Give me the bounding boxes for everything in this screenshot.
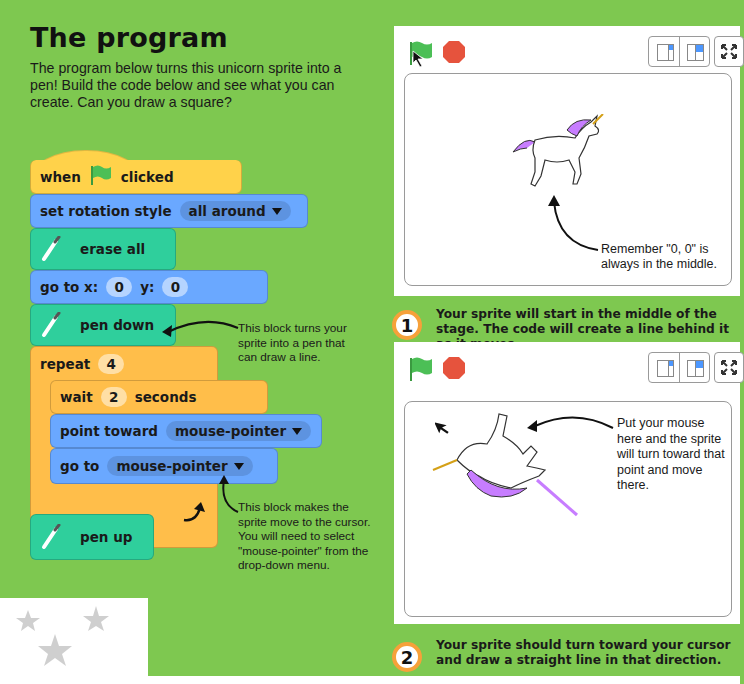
pen-icon — [40, 524, 62, 550]
erase-all-block[interactable]: erase all — [30, 228, 176, 270]
green-flag-button[interactable] — [408, 356, 434, 386]
block-text: pen up — [80, 529, 132, 545]
green-flag-icon — [89, 164, 113, 189]
large-stage-button[interactable] — [687, 44, 704, 61]
dropdown-arrow-icon — [292, 428, 302, 435]
pen-up-block[interactable]: pen up — [30, 514, 154, 560]
pen-down-note: This block turns your sprite into a pen … — [238, 321, 356, 365]
stage-size-toggle — [648, 352, 710, 383]
bottom-strip — [148, 676, 740, 684]
block-text: go to — [60, 458, 99, 474]
stage-canvas-1[interactable]: Remember "0, 0" is always in the middle. — [404, 73, 732, 286]
dropdown-value: mouse-pointer — [175, 423, 286, 439]
mouse-cursor-icon — [412, 50, 428, 72]
dropdown-arrow-icon — [272, 208, 282, 215]
go-to-note: This block makes the sprite move to the … — [238, 500, 373, 573]
pen-down-arrow-icon — [160, 318, 240, 344]
y-input[interactable]: 0 — [162, 277, 188, 297]
dropdown-value: mouse-pointer — [116, 458, 227, 474]
small-stage-button[interactable] — [657, 360, 674, 377]
wait-seconds-input[interactable]: 2 — [101, 387, 127, 407]
point-toward-block[interactable]: point toward mouse-pointer — [50, 414, 322, 448]
wait-block[interactable]: wait 2 seconds — [50, 380, 268, 414]
loop-arrow-icon — [182, 500, 210, 528]
block-text: seconds — [135, 389, 197, 405]
block-text: point toward — [60, 423, 158, 439]
dropdown-arrow-icon — [234, 463, 244, 470]
stage2-caption: Your sprite should turn toward your curs… — [436, 638, 736, 668]
block-text: clicked — [121, 169, 174, 185]
x-input[interactable]: 0 — [106, 277, 132, 297]
go-to-dropdown[interactable]: mouse-pointer — [107, 456, 252, 476]
go-to-block[interactable]: go to mouse-pointer — [50, 448, 278, 484]
pen-icon — [40, 236, 62, 262]
divider — [679, 353, 680, 382]
stage-size-toggle — [648, 36, 710, 67]
block-text: repeat — [40, 356, 90, 372]
fullscreen-button[interactable] — [714, 36, 744, 67]
rotation-style-dropdown[interactable]: all around — [180, 201, 291, 221]
block-text: pen down — [80, 317, 154, 333]
stage-panel-1: Remember "0, 0" is always in the middle. — [394, 26, 740, 296]
large-stage-button[interactable] — [687, 360, 704, 377]
stage-panel-2: Put your mouse here and the sprite will … — [394, 342, 740, 624]
block-text: wait — [60, 389, 93, 405]
stage1-annotation: Remember "0, 0" is always in the middle. — [601, 242, 727, 272]
mouse-here-arrow-icon — [525, 412, 615, 442]
unicorn-sprite — [505, 114, 615, 200]
block-text: when — [40, 169, 81, 185]
stop-button[interactable] — [442, 356, 466, 380]
step-number-2: 2 — [392, 642, 422, 672]
dropdown-value: all around — [189, 203, 266, 219]
block-text: set rotation style — [40, 203, 172, 219]
fullscreen-button[interactable] — [714, 352, 744, 383]
small-stage-button[interactable] — [657, 44, 674, 61]
stage2-annotation: Put your mouse here and the sprite will … — [617, 416, 727, 494]
when-flag-clicked-block[interactable]: when clicked — [30, 160, 242, 194]
stage-canvas-2[interactable]: Put your mouse here and the sprite will … — [404, 401, 732, 617]
middle-arrow-icon — [540, 194, 600, 258]
block-text: go to x: — [40, 279, 98, 295]
step-number-1: 1 — [392, 310, 422, 340]
stars-decoration — [0, 598, 148, 684]
fullscreen-icon — [715, 37, 743, 66]
intro-text: The program below turns this unicorn spr… — [30, 60, 360, 111]
point-toward-dropdown[interactable]: mouse-pointer — [166, 421, 311, 441]
repeat-count-input[interactable]: 4 — [98, 354, 124, 374]
block-text: y: — [140, 279, 154, 295]
stop-button[interactable] — [442, 40, 466, 64]
pen-icon — [40, 312, 62, 338]
set-rotation-style-block[interactable]: set rotation style all around — [30, 194, 308, 228]
page-title: The program — [30, 22, 228, 53]
block-text: erase all — [80, 241, 145, 257]
fullscreen-icon — [715, 353, 743, 382]
pen-down-block[interactable]: pen down — [30, 304, 176, 346]
go-to-xy-block[interactable]: go to x: 0 y: 0 — [30, 270, 268, 304]
divider — [679, 37, 680, 66]
go-to-arrow-icon — [216, 474, 240, 518]
